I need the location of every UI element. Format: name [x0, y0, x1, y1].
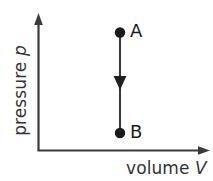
- x-axis-arrowhead: [198, 146, 210, 155]
- data-point-b-label: B: [130, 123, 142, 141]
- y-axis-label-text: pressure: [10, 56, 30, 136]
- diagram-canvas: [0, 0, 213, 181]
- x-axis-label: volume V: [126, 157, 207, 179]
- data-point-a-marker: [115, 27, 125, 37]
- y-axis-label-symbol: p: [10, 45, 30, 56]
- x-axis-label-text: volume: [126, 158, 195, 178]
- process-direction-arrowhead: [114, 76, 127, 90]
- x-axis-label-symbol: V: [195, 158, 207, 178]
- pressure-volume-diagram: pressure p volume V A B: [0, 0, 213, 181]
- data-point-a-label: A: [130, 22, 142, 40]
- y-axis-label: pressure p: [9, 0, 31, 181]
- y-axis-arrowhead: [34, 13, 43, 25]
- data-point-b-marker: [115, 128, 125, 138]
